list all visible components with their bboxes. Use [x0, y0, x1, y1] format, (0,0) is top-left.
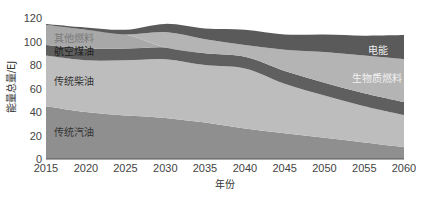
y-tick: 60: [30, 83, 42, 95]
y-tick: 20: [30, 130, 42, 142]
x-tick: 2035: [193, 162, 217, 174]
y-tick: 80: [30, 59, 42, 71]
label-gasoline: 传统汽油: [54, 126, 94, 138]
y-axis-title: 能量总量/EJ: [5, 61, 17, 114]
label-biofuel: 生物质燃料: [352, 72, 402, 84]
x-tick: 2040: [233, 162, 257, 174]
x-tick: 2050: [312, 162, 336, 174]
y-tick: 100: [24, 36, 42, 48]
label-other-fuels: 其他燃料: [54, 32, 94, 44]
label-jet-fuel: 航空煤油: [54, 45, 94, 57]
y-tick: 120: [24, 12, 42, 24]
x-tick: 2060: [392, 162, 416, 174]
x-axis-title: 年份: [215, 178, 235, 190]
x-tick: 2015: [34, 162, 58, 174]
x-tick: 2045: [272, 162, 296, 174]
stacked-area-chart: 0 20 40 60 80 100 120 2015 2020 2025 203…: [0, 0, 426, 199]
area-bands: [46, 24, 404, 159]
x-tick: 2025: [113, 162, 137, 174]
x-tick-labels: 2015 2020 2025 2030 2035 2040 2045 2050 …: [34, 162, 416, 174]
x-tick: 2055: [352, 162, 376, 174]
y-tick-labels: 0 20 40 60 80 100 120: [24, 12, 42, 165]
y-tick: 40: [30, 106, 42, 118]
label-electricity: 电能: [368, 44, 388, 56]
x-tick: 2030: [153, 162, 177, 174]
x-tick: 2020: [74, 162, 98, 174]
label-diesel: 传统柴油: [54, 75, 94, 87]
